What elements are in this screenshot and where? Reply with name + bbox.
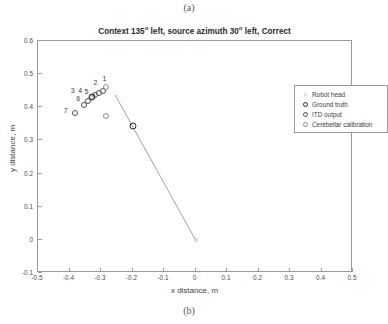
y-tick-mark <box>38 106 42 107</box>
legend-item: Ground truth <box>298 99 383 109</box>
y-tick-mark <box>38 73 42 74</box>
x-tick-mark <box>352 268 353 272</box>
y-tick-mark <box>38 40 42 41</box>
title-segment-1: Context 135 <box>98 27 144 36</box>
x-tick-label: 0.2 <box>253 274 262 281</box>
y-tick-mark <box>38 173 42 174</box>
y-tick-label: 0.2 <box>24 169 33 176</box>
y-tick-label: 0.1 <box>24 202 33 209</box>
x-tick-mark <box>289 268 290 272</box>
figure-caption-b: (b) <box>0 305 378 316</box>
y-tick-label: -0.1 <box>22 269 33 276</box>
x-tick-label: -0.4 <box>63 274 74 281</box>
legend-marker-icon <box>298 122 312 127</box>
data-point-marker <box>129 122 136 129</box>
legend-label: Ground truth <box>312 101 348 108</box>
legend-marker-icon <box>298 102 312 107</box>
point-label: 4 <box>78 87 82 94</box>
legend-label: Cerebellar calibration <box>312 121 372 128</box>
x-tick-mark <box>69 268 70 272</box>
y-tick-mark <box>38 206 42 207</box>
x-tick-label: 0.1 <box>222 274 231 281</box>
figure-caption-a: (a) <box>0 2 378 13</box>
x-tick-label: 0.4 <box>316 274 325 281</box>
x-tick-label: -0.1 <box>157 274 168 281</box>
point-label: 1 <box>103 75 107 82</box>
legend-item: Cerebellar calibration <box>298 119 383 129</box>
legend-label: Robot head <box>312 91 345 98</box>
point-label: 6 <box>76 95 80 102</box>
point-label: 3 <box>71 87 75 94</box>
point-label: 5 <box>85 87 89 94</box>
data-point-marker <box>103 113 109 119</box>
y-tick-label: 0.5 <box>24 70 33 77</box>
x-tick-label: -0.2 <box>126 274 137 281</box>
y-axis-label: y distance, m <box>8 89 17 209</box>
legend-marker-icon <box>298 93 312 96</box>
x-axis-label: x distance, m <box>37 286 352 295</box>
plot-area: 1234567 Robot headGround truthITD output… <box>37 40 352 272</box>
x-tick-mark <box>163 268 164 272</box>
x-tick-mark <box>258 268 259 272</box>
x-tick-mark <box>321 268 322 272</box>
legend-swatch <box>303 112 308 117</box>
point-label: 7 <box>64 106 68 113</box>
chart-legend: Robot headGround truthITD outputCerebell… <box>294 85 388 133</box>
legend-swatch <box>304 93 307 96</box>
x-tick-label: -0.3 <box>94 274 105 281</box>
y-tick-label: 0.4 <box>24 103 33 110</box>
y-tick-label: 0.3 <box>24 136 33 143</box>
title-segment-2: left, source azimuth 30 <box>148 27 239 36</box>
legend-item: ITD output <box>298 109 383 119</box>
data-point-marker <box>194 238 198 242</box>
x-tick-mark <box>226 268 227 272</box>
y-tick-label: 0.6 <box>24 37 33 44</box>
x-tick-mark <box>132 268 133 272</box>
legend-label: ITD output <box>312 111 342 118</box>
legend-item: Robot head <box>298 89 383 99</box>
x-tick-label: 0 <box>193 274 197 281</box>
x-tick-mark <box>100 268 101 272</box>
x-tick-label: 0.3 <box>285 274 294 281</box>
point-label: 2 <box>93 79 97 86</box>
data-point-marker <box>72 110 78 116</box>
legend-swatch <box>303 102 308 107</box>
x-tick-label: -0.5 <box>31 274 42 281</box>
y-tick-label: 0 <box>29 235 33 242</box>
legend-marker-icon <box>298 112 312 117</box>
x-tick-mark <box>195 268 196 272</box>
y-tick-mark <box>38 139 42 140</box>
y-tick-mark <box>38 272 42 273</box>
data-point-marker <box>103 84 109 90</box>
x-tick-label: 0.5 <box>348 274 357 281</box>
y-tick-mark <box>38 239 42 240</box>
legend-swatch <box>303 122 308 127</box>
chart-title: Context 135o left, source azimuth 30o le… <box>37 25 352 36</box>
figure-panel-b: Context 135o left, source azimuth 30o le… <box>0 18 378 302</box>
title-segment-3: left, Correct <box>243 27 291 36</box>
